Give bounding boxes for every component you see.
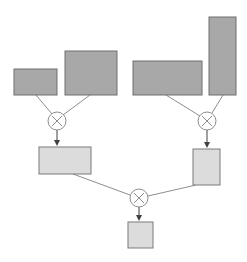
tensor-product-icon [198, 112, 216, 130]
tensor-product-icon [130, 189, 148, 207]
edge-a-to-op1 [36, 95, 52, 114]
output-box [128, 222, 153, 248]
diagram-canvas [0, 0, 247, 262]
intermediate-boxes [39, 147, 220, 185]
tensor-product-icon [48, 112, 66, 130]
edge-d-to-op2 [212, 95, 223, 113]
edge-b-to-op1 [63, 95, 90, 115]
intermediate-box-cd [193, 149, 220, 185]
input-box-d [209, 17, 236, 95]
input-box-b [65, 51, 117, 95]
input-box-a [14, 69, 57, 95]
input-boxes [14, 17, 236, 95]
edge-cd-to-op3 [148, 185, 196, 196]
edge-ab-to-op3 [73, 174, 130, 195]
input-box-c [133, 61, 202, 95]
edge-c-to-op2 [166, 95, 200, 116]
intermediate-box-ab [39, 147, 91, 174]
